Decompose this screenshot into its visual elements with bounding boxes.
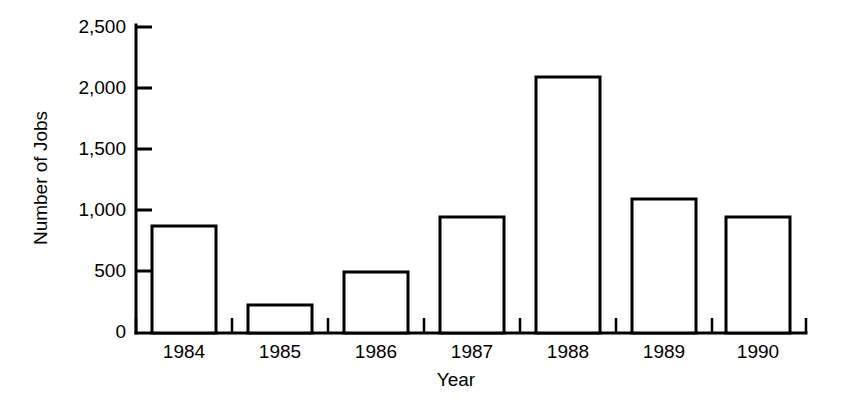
bar-1990[interactable]: [726, 217, 790, 333]
x-tick-label-1988: 1988: [547, 341, 589, 362]
y-tick-label-1500: 1,500: [78, 138, 126, 159]
bar-1988[interactable]: [536, 77, 600, 333]
x-tick-label-1990: 1990: [737, 341, 779, 362]
bar-1987[interactable]: [440, 217, 504, 333]
bar-1989[interactable]: [632, 199, 696, 333]
x-tick-label-1986: 1986: [355, 341, 397, 362]
y-tick-label-2500: 2,500: [78, 16, 126, 37]
y-tick-label-2000: 2,000: [78, 77, 126, 98]
x-tick-label-1989: 1989: [643, 341, 685, 362]
x-axis-title: Year: [437, 369, 476, 390]
bar-1985[interactable]: [248, 305, 312, 333]
x-axis-tick-labels: 1984 1985 1986 1987 1988 1989 1990: [163, 341, 779, 362]
y-tick-label-500: 500: [94, 260, 126, 281]
bar-chart: 2,500 2,000 1,500 1,000 500 0 Number of …: [0, 0, 842, 403]
x-tick-label-1984: 1984: [163, 341, 206, 362]
x-tick-label-1985: 1985: [259, 341, 301, 362]
bar-1986[interactable]: [344, 272, 408, 333]
chart-canvas: 2,500 2,000 1,500 1,000 500 0 Number of …: [0, 0, 842, 403]
y-axis-ticks: [136, 27, 152, 271]
bars-group: [152, 77, 790, 333]
x-tick-label-1987: 1987: [451, 341, 493, 362]
y-tick-label-0: 0: [115, 321, 126, 342]
y-axis-title: Number of Jobs: [30, 111, 51, 245]
bar-1984[interactable]: [152, 226, 216, 333]
y-tick-label-1000: 1,000: [78, 199, 126, 220]
y-axis-tick-labels: 2,500 2,000 1,500 1,000 500 0: [78, 16, 126, 342]
